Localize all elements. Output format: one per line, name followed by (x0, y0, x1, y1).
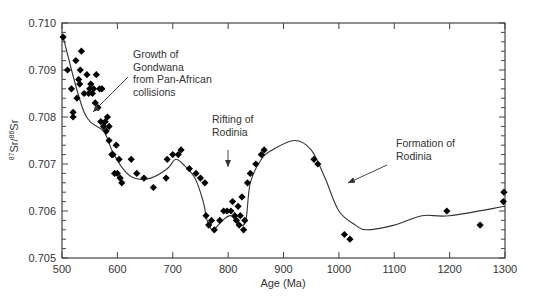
x-tick-label: 900 (274, 263, 292, 275)
data-point-diamond (128, 156, 135, 163)
data-point-diamond (163, 175, 170, 182)
annotation-arrow (93, 77, 128, 112)
x-tick-label: 700 (164, 263, 182, 275)
data-point-diamond (202, 212, 209, 219)
x-axis-title: Age (Ma) (260, 277, 305, 289)
data-point-diamond (69, 113, 76, 120)
y-label-sr2: Sr (8, 119, 20, 130)
data-point-diamond (73, 95, 80, 102)
data-point-diamond (133, 170, 140, 177)
data-point-diamond (476, 222, 483, 229)
figure-caption (0, 292, 533, 301)
annotation-text: Gondwana (133, 61, 184, 73)
y-label-sup-86: 86 (8, 131, 15, 139)
data-point-diamond (105, 137, 112, 144)
data-point-diamond (346, 236, 353, 243)
data-point-diamond (241, 217, 248, 224)
rifting-annotation: Rifting ofRodinia (212, 113, 254, 167)
y-label-sup-87: 87 (8, 152, 15, 160)
data-point-diamond (113, 142, 120, 149)
data-point-diamond (229, 198, 236, 205)
data-point-diamond (64, 66, 71, 73)
y-tick-label: 0.707 (28, 158, 56, 170)
x-tick-label: 1100 (382, 263, 406, 275)
data-point-diamond (252, 160, 259, 167)
annotations: Growth ofGondwanafrom Pan-Africancollisi… (93, 48, 455, 183)
data-point-diamond (68, 85, 75, 92)
y-tick-label: 0.708 (28, 111, 56, 123)
data-point-diamond (140, 175, 147, 182)
data-point-diamond (500, 198, 507, 205)
annotation-text: collisions (133, 86, 176, 98)
data-point-diamond (77, 66, 84, 73)
data-point-diamond (240, 226, 247, 233)
x-tick-label: 1000 (327, 263, 351, 275)
data-point-diamond (72, 57, 79, 64)
data-point-diamond (443, 207, 450, 214)
gondwana-annotation: Growth ofGondwanafrom Pan-Africancollisi… (93, 48, 212, 112)
data-point-diamond (500, 189, 507, 196)
annotation-text: Growth of (133, 48, 179, 60)
sr-isotope-chart: 50060070080090010001100120013000.7050.70… (0, 0, 533, 301)
data-point-diamond (150, 184, 157, 191)
y-label-sr1: Sr/ (8, 138, 20, 153)
annotation-text: from Pan-African (133, 73, 212, 85)
y-tick-label: 0.706 (28, 205, 56, 217)
x-tick-label: 500 (53, 263, 71, 275)
x-tick-label: 800 (219, 263, 237, 275)
data-point-diamond (78, 48, 85, 55)
data-point-diamond (234, 203, 241, 210)
data-point-diamond (197, 175, 204, 182)
y-tick-label: 0.710 (28, 17, 56, 29)
x-tick-label: 1200 (437, 263, 461, 275)
formation-annotation: Formation ofRodinia (348, 137, 455, 183)
annotation-text: Rodinia (212, 126, 248, 138)
data-point-diamond (60, 34, 67, 41)
data-point-diamond (341, 231, 348, 238)
annotation-text: Rodinia (396, 150, 432, 162)
data-point-diamond (83, 71, 90, 78)
trend-line (63, 37, 505, 230)
x-tick-label: 1300 (493, 263, 517, 275)
annotation-text: Rifting of (212, 113, 254, 125)
data-point-diamond (201, 179, 208, 186)
annotation-arrow (348, 165, 387, 183)
x-tick-label: 600 (108, 263, 126, 275)
y-tick-label: 0.705 (28, 252, 56, 264)
annotation-text: Formation of (396, 137, 455, 149)
y-tick-label: 0.709 (28, 64, 56, 76)
data-point-diamond (238, 193, 245, 200)
data-point-diamond (93, 71, 100, 78)
data-point-diamond (115, 156, 122, 163)
trend-curve (63, 37, 505, 230)
y-axis-title: 87Sr/86Sr (8, 119, 20, 160)
data-point-diamond (186, 165, 193, 172)
data-point-diamond (164, 156, 171, 163)
data-point-diamond (216, 217, 223, 224)
